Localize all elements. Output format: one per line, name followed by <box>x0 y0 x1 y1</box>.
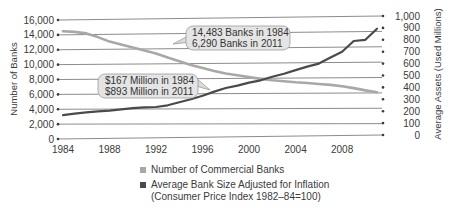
legend-swatch-size <box>140 182 146 188</box>
right-axis-ticks: 01002003004005006007008009001,000 <box>382 11 421 141</box>
svg-text:2,000: 2,000 <box>29 119 54 130</box>
svg-text:10,000: 10,000 <box>23 59 54 70</box>
legend-label-size-line1: Average Bank Size Adjusted for Inflation <box>151 179 329 190</box>
callout-size: $167 Million in 1984 $893 Million in 201… <box>98 74 210 98</box>
svg-text:300: 300 <box>403 94 420 105</box>
svg-text:14,000: 14,000 <box>23 29 54 40</box>
x-axis-ticks: 1984198819921996200020042008 <box>52 144 354 155</box>
legend: Number of Commercial Banks Average Bank … <box>140 164 329 206</box>
legend-label-size: Average Bank Size Adjusted for Inflation… <box>151 179 329 203</box>
right-axis-title: Average Assets (Used Millions) <box>432 8 443 139</box>
callout-size-line2: $893 Million in 2011 <box>105 86 194 97</box>
svg-text:600: 600 <box>403 58 420 69</box>
svg-text:16,000: 16,000 <box>23 15 54 26</box>
svg-text:8,000: 8,000 <box>29 74 54 85</box>
svg-text:800: 800 <box>403 34 420 45</box>
svg-text:2008: 2008 <box>331 144 354 155</box>
svg-text:12,000: 12,000 <box>23 44 54 55</box>
svg-text:100: 100 <box>403 118 420 129</box>
svg-text:500: 500 <box>403 70 420 81</box>
legend-swatch-banks <box>140 167 146 173</box>
callout-banks-line1: 14,483 Banks in 1984 <box>192 27 289 38</box>
callout-banks-line2: 6,290 Banks in 2011 <box>192 38 283 49</box>
svg-text:6,000: 6,000 <box>29 89 54 100</box>
legend-label-size-line2: (Consumer Price Index 1982–84=100) <box>151 191 321 202</box>
legend-item-banks: Number of Commercial Banks <box>140 164 329 176</box>
left-axis-ticks: 02,0004,0006,0008,00010,00012,00014,0001… <box>23 15 59 145</box>
svg-text:0: 0 <box>414 130 420 141</box>
svg-text:900: 900 <box>403 22 420 33</box>
svg-text:1996: 1996 <box>191 144 214 155</box>
svg-text:200: 200 <box>403 106 420 117</box>
callout-size-line1: $167 Million in 1984 <box>105 75 194 86</box>
svg-text:1988: 1988 <box>98 144 121 155</box>
svg-text:0: 0 <box>48 134 54 145</box>
svg-text:700: 700 <box>403 46 420 57</box>
svg-text:1984: 1984 <box>52 144 75 155</box>
legend-label-banks: Number of Commercial Banks <box>151 164 284 176</box>
legend-item-size: Average Bank Size Adjusted for Inflation… <box>140 179 329 203</box>
left-axis-title: Number of Banks <box>8 42 19 116</box>
svg-text:2000: 2000 <box>238 144 261 155</box>
svg-text:4,000: 4,000 <box>29 104 54 115</box>
svg-text:1,000: 1,000 <box>395 11 420 22</box>
svg-text:1992: 1992 <box>145 144 168 155</box>
svg-text:2004: 2004 <box>284 144 307 155</box>
svg-text:400: 400 <box>403 82 420 93</box>
callout-banks: 14,483 Banks in 1984 6,290 Banks in 2011 <box>173 26 290 50</box>
